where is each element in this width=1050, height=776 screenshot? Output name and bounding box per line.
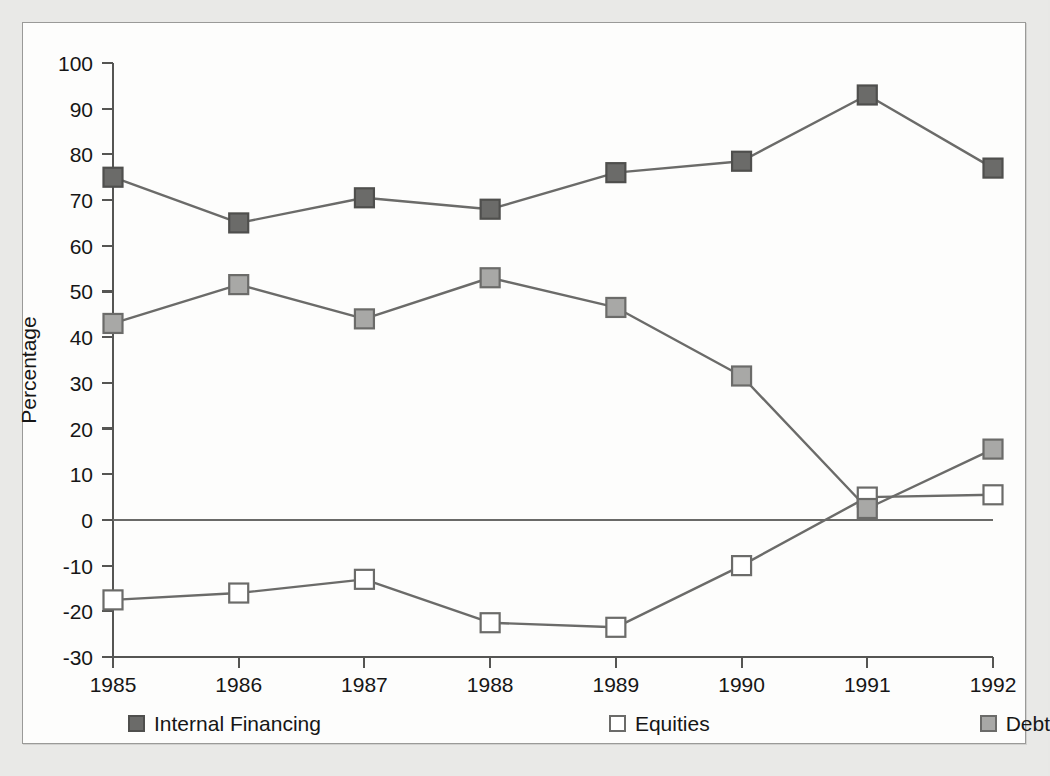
legend-item-internal-financing[interactable]: Internal Financing bbox=[128, 713, 321, 734]
legend-label-debt: Debt bbox=[1006, 713, 1050, 734]
chart-panel bbox=[22, 22, 1026, 744]
legend-swatch-debt bbox=[980, 715, 997, 732]
legend-label-equities: Equities bbox=[635, 713, 710, 734]
legend-swatch-internal-financing bbox=[128, 715, 145, 732]
legend-item-debt[interactable]: Debt bbox=[980, 713, 1050, 734]
legend-swatch-equities bbox=[609, 715, 626, 732]
chart-legend: Internal Financing Equities Debt bbox=[40, 706, 1006, 740]
legend-label-internal-financing: Internal Financing bbox=[154, 713, 321, 734]
legend-item-equities[interactable]: Equities bbox=[609, 713, 710, 734]
